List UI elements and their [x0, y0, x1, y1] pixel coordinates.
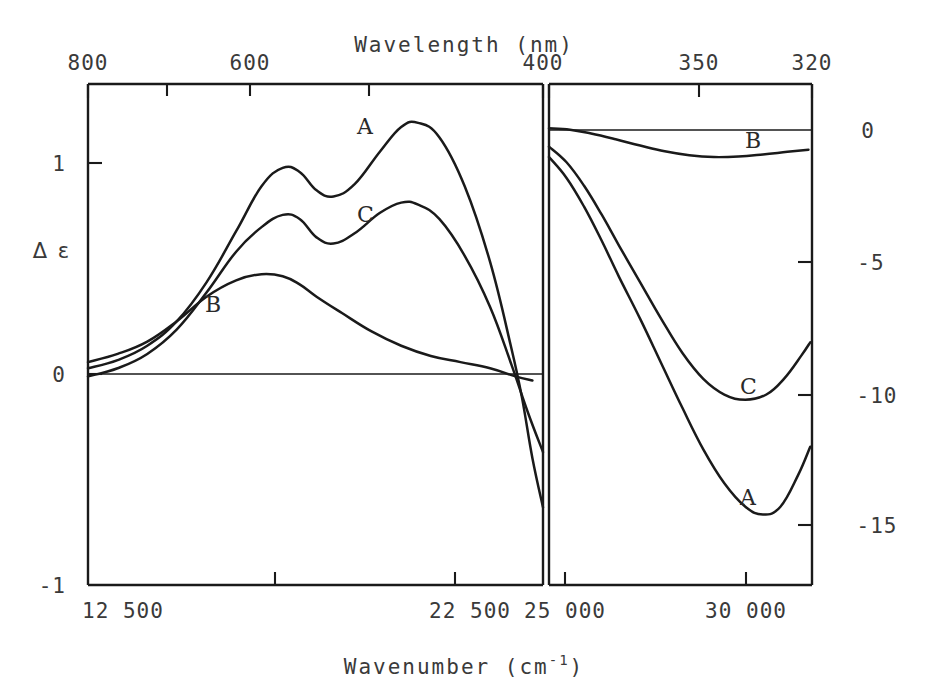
bottom-tick-label-22500: 22 500 — [429, 599, 511, 623]
curve-right-C — [549, 147, 810, 400]
right-bottom-tick-label-30000: 30 000 — [705, 599, 787, 623]
curve-label-right-C: C — [740, 374, 757, 399]
curve-left-C — [88, 202, 543, 452]
bottom-axis-title: Wavenumber (cm-1) — [344, 652, 585, 679]
curve-right-B — [549, 128, 808, 157]
cd-spectrum-figure: Wavelength (nm) 800 600 40 — [0, 0, 929, 697]
curve-label-left-C: C — [357, 202, 374, 227]
right-y-label-minus5: -5 — [857, 251, 884, 275]
y-axis-title: Δ ε — [33, 239, 71, 263]
left-y-label-minus1: -1 — [39, 574, 66, 598]
bottom-tick-label-12500: 12 500 — [82, 599, 164, 623]
curve-label-left-A: A — [356, 114, 374, 139]
right-top-tick-label-320: 320 — [792, 51, 833, 75]
plot-canvas: Wavelength (nm) 800 600 40 — [0, 0, 929, 697]
bottom-axis-title-superscript: -1 — [549, 652, 570, 668]
curve-left-B — [88, 274, 532, 381]
left-panel: 800 600 400 12 500 22 500 1 0 -1 Δ ε A C… — [33, 51, 564, 623]
left-y-label-0: 0 — [52, 363, 66, 387]
left-y-label-1: 1 — [52, 152, 66, 176]
right-y-label-minus15: -15 — [857, 514, 898, 538]
top-tick-label-600: 600 — [230, 51, 271, 75]
top-tick-label-800: 800 — [68, 51, 109, 75]
curve-label-right-A: A — [739, 485, 757, 510]
curve-label-right-B: B — [745, 128, 761, 153]
curve-left-A — [88, 122, 543, 508]
top-tick-label-400: 400 — [523, 51, 564, 75]
right-bottom-tick-label-25000: 25 000 — [524, 599, 606, 623]
right-y-label-0: 0 — [861, 119, 875, 143]
right-top-tick-label-350: 350 — [679, 51, 720, 75]
curve-right-A — [549, 157, 810, 514]
bottom-axis-title-close: ) — [570, 655, 585, 679]
right-y-label-minus10: -10 — [857, 384, 898, 408]
curve-label-left-B: B — [205, 292, 221, 317]
right-panel: 350 320 25 000 30 000 0 -5 -10 -15 B C A — [524, 51, 897, 623]
bottom-axis-title-base: Wavenumber (cm — [344, 655, 549, 679]
